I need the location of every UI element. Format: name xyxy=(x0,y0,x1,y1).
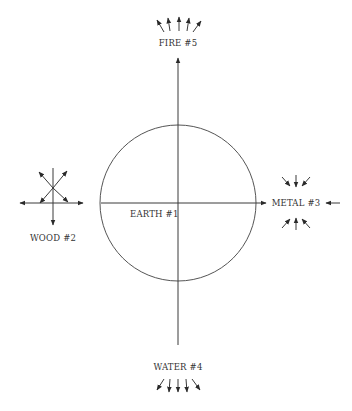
five-elements-diagram: EARTH #1 FIRE #5 WOOD #2 METAL #3 WATER … xyxy=(0,0,352,411)
fire-label: FIRE #5 xyxy=(159,38,198,48)
water-label: WATER #4 xyxy=(153,362,202,372)
fire-upward-arrows-icon xyxy=(157,17,201,32)
wood-expanding-arrows-icon xyxy=(20,168,83,225)
wood-label: WOOD #2 xyxy=(30,233,76,243)
metal-label: METAL #3 xyxy=(272,198,321,208)
water-downward-arrows-icon xyxy=(157,379,200,392)
earth-label: EARTH #1 xyxy=(130,209,179,219)
